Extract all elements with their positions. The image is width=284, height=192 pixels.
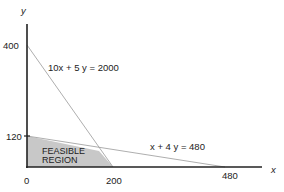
- x-axis-label: x: [270, 164, 277, 175]
- tick-label-0: 0: [24, 175, 29, 186]
- tick-label-400: 400: [3, 40, 19, 51]
- y-axis-label: y: [20, 5, 27, 16]
- equation-label-2: x + 4 y = 480: [150, 141, 205, 152]
- region-label-line2: REGION: [42, 155, 78, 165]
- tick-label-120: 120: [6, 131, 22, 142]
- feasible-region-chart: y x 400 120 0 200 480 10x + 5 y = 2000 x…: [0, 0, 284, 192]
- equation-label-1: 10x + 5 y = 2000: [48, 62, 119, 73]
- tick-label-200: 200: [106, 175, 122, 186]
- tick-label-480: 480: [222, 170, 238, 181]
